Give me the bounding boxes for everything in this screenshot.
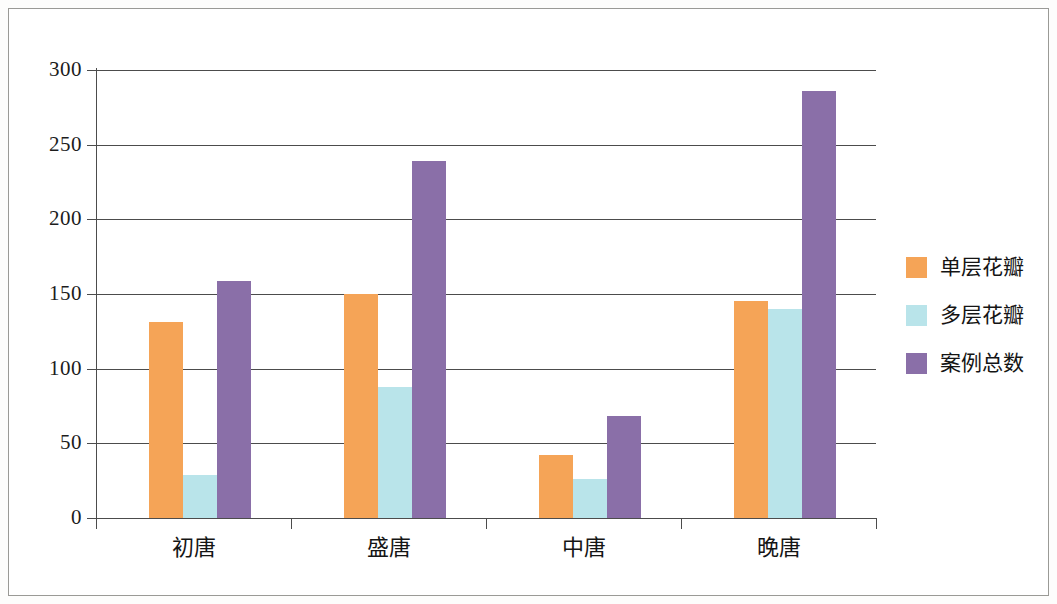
bar-中唐-案例总数 — [607, 416, 641, 518]
bar-初唐-案例总数 — [217, 281, 251, 518]
x-tick — [876, 518, 877, 529]
bar-晚唐-案例总数 — [802, 91, 836, 518]
y-axis-label: 50 — [20, 432, 82, 453]
y-tick-200 — [87, 219, 96, 220]
x-tick — [486, 518, 487, 529]
bar-晚唐-多层花瓣 — [768, 309, 802, 518]
y-axis-label: 200 — [20, 208, 82, 229]
bar-盛唐-案例总数 — [412, 161, 446, 518]
y-tick-250 — [87, 145, 96, 146]
legend-label: 案例总数 — [940, 353, 1024, 374]
legend-swatch-icon — [906, 353, 927, 374]
y-tick-300 — [87, 70, 96, 71]
chart-page: 050100150200250300 初唐盛唐中唐晚唐 单层花瓣多层花瓣案例总数 — [0, 0, 1057, 604]
x-axis-label-晚唐: 晚唐 — [689, 534, 869, 562]
x-axis-label-盛唐: 盛唐 — [299, 534, 479, 562]
gridline-150 — [96, 294, 876, 295]
x-axis-label-初唐: 初唐 — [104, 534, 284, 562]
y-axis-label: 300 — [20, 59, 82, 80]
x-axis-label-中唐: 中唐 — [494, 534, 674, 562]
y-axis-label: 250 — [20, 134, 82, 155]
bar-初唐-单层花瓣 — [149, 322, 183, 518]
bar-盛唐-单层花瓣 — [344, 294, 378, 518]
bar-初唐-多层花瓣 — [183, 475, 217, 518]
y-tick-150 — [87, 294, 96, 295]
legend-item-案例总数[interactable]: 案例总数 — [906, 339, 1024, 387]
y-tick-0 — [87, 518, 96, 519]
bar-中唐-多层花瓣 — [573, 479, 607, 518]
grouped-bar-chart: 050100150200250300 初唐盛唐中唐晚唐 单层花瓣多层花瓣案例总数 — [0, 0, 1057, 604]
bar-晚唐-单层花瓣 — [734, 301, 768, 518]
x-tick — [291, 518, 292, 529]
bar-盛唐-多层花瓣 — [378, 387, 412, 518]
y-tick-50 — [87, 443, 96, 444]
legend-item-单层花瓣[interactable]: 单层花瓣 — [906, 243, 1024, 291]
gridline-200 — [96, 219, 876, 220]
legend-item-多层花瓣[interactable]: 多层花瓣 — [906, 291, 1024, 339]
legend-swatch-icon — [906, 305, 927, 326]
y-axis-label: 100 — [20, 358, 82, 379]
y-axis-label: 150 — [20, 283, 82, 304]
x-tick — [96, 518, 97, 529]
legend-swatch-icon — [906, 257, 927, 278]
x-tick — [681, 518, 682, 529]
gridline-250 — [96, 145, 876, 146]
gridline-300 — [96, 70, 876, 71]
chart-legend: 单层花瓣多层花瓣案例总数 — [906, 243, 1024, 387]
legend-label: 多层花瓣 — [940, 305, 1024, 326]
y-tick-100 — [87, 369, 96, 370]
y-axis-label: 0 — [20, 507, 82, 528]
bar-中唐-单层花瓣 — [539, 455, 573, 518]
legend-label: 单层花瓣 — [940, 257, 1024, 278]
